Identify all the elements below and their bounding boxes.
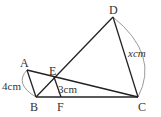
label-f: F — [57, 100, 64, 114]
measure-ab: 4cm — [2, 80, 21, 92]
geometry-figure: A B C D E F 4cm 3cm xcm — [0, 0, 161, 117]
measure-dc: xcm — [127, 47, 146, 59]
segment-ab — [27, 70, 36, 97]
label-b: B — [30, 100, 38, 114]
segment-ac — [27, 70, 138, 97]
label-a: A — [20, 56, 29, 70]
arc-ab — [22, 70, 36, 97]
label-e: E — [49, 64, 56, 78]
label-c: C — [138, 100, 146, 114]
measure-ef: 3cm — [58, 83, 77, 95]
label-d: D — [109, 3, 118, 17]
